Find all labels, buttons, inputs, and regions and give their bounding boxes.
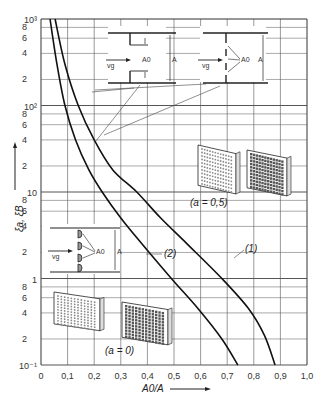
annotation-4: (a = 0)	[105, 345, 134, 356]
x-tick-label: 0,4	[141, 371, 154, 381]
hole	[209, 150, 211, 152]
hole	[281, 180, 283, 182]
hole	[138, 320, 140, 322]
hole	[230, 160, 232, 162]
hole	[145, 336, 147, 338]
hole	[209, 168, 211, 170]
hole	[80, 313, 82, 315]
hole	[228, 180, 230, 182]
hole	[135, 331, 137, 333]
hole	[256, 184, 258, 186]
hole	[264, 163, 266, 165]
hole	[155, 338, 157, 340]
hole	[222, 178, 224, 180]
hole	[87, 320, 89, 322]
hole	[278, 183, 280, 185]
hole	[135, 325, 137, 327]
hole	[212, 172, 214, 174]
hole	[90, 312, 92, 314]
hole	[230, 173, 232, 175]
inset-orifice-a: A	[172, 56, 177, 63]
hole	[152, 310, 154, 312]
hole	[256, 161, 258, 163]
hole	[206, 167, 208, 169]
y-minor-label: 8	[22, 195, 27, 205]
hole	[148, 322, 150, 324]
hole	[57, 301, 59, 303]
hole	[264, 179, 266, 181]
hole	[281, 177, 283, 179]
hole	[253, 160, 255, 162]
hole	[155, 323, 157, 325]
hole	[158, 330, 160, 332]
y-axis-label: ξa, ξB	[14, 205, 26, 232]
hole	[132, 337, 134, 339]
hole	[145, 324, 147, 326]
hole	[222, 161, 224, 163]
hole	[209, 154, 211, 156]
inset-grid-sharp-a: A	[258, 56, 263, 63]
hole	[228, 166, 230, 168]
hole	[278, 186, 280, 188]
x-tick-label: 0,1	[61, 371, 74, 381]
hole	[250, 169, 252, 171]
hole	[278, 179, 280, 181]
hole	[77, 326, 79, 328]
hole	[70, 325, 72, 327]
hole	[204, 173, 206, 175]
hole	[148, 319, 150, 321]
y-axis-arrowhead	[13, 142, 17, 148]
hole	[250, 179, 252, 181]
hole	[256, 154, 258, 156]
hole	[281, 174, 283, 176]
hole	[214, 180, 216, 182]
hole	[145, 330, 147, 332]
hole	[281, 160, 283, 162]
hole	[162, 333, 164, 335]
hole	[74, 323, 76, 325]
hole	[204, 152, 206, 154]
hole	[60, 301, 62, 303]
hole	[162, 327, 164, 329]
hole	[90, 315, 92, 317]
x-tick-label: 0,3	[115, 371, 128, 381]
hole	[57, 303, 59, 305]
hole	[135, 316, 137, 318]
hole	[84, 316, 86, 318]
hole	[135, 322, 137, 324]
hole	[132, 328, 134, 330]
hole	[204, 166, 206, 168]
hole	[273, 185, 275, 187]
hole	[125, 326, 127, 328]
hole	[135, 307, 137, 309]
hole	[220, 164, 222, 166]
hole	[94, 321, 96, 323]
x-tick-label: 0,9	[274, 371, 287, 381]
hole	[70, 319, 72, 321]
hole	[230, 187, 232, 189]
hole	[267, 173, 269, 175]
hole	[80, 299, 82, 301]
hole	[259, 188, 261, 190]
hole	[67, 319, 69, 321]
hole	[152, 328, 154, 330]
hole	[228, 187, 230, 189]
y-minor-label: 2	[22, 74, 27, 84]
hole	[264, 176, 266, 178]
hole	[80, 307, 82, 309]
hole	[80, 324, 82, 326]
hole	[70, 322, 72, 324]
x-tick-label: 0,2	[88, 371, 101, 381]
hole	[278, 160, 280, 162]
hole	[267, 177, 269, 179]
hole	[77, 304, 79, 306]
hole	[212, 161, 214, 163]
hole	[67, 324, 69, 326]
hole	[57, 314, 59, 316]
hole	[270, 171, 272, 173]
hole	[222, 164, 224, 166]
hole	[217, 177, 219, 179]
hole	[162, 339, 164, 341]
y-decade-label: 10⁻¹	[19, 361, 37, 371]
y-decade-label: 1	[32, 275, 37, 285]
